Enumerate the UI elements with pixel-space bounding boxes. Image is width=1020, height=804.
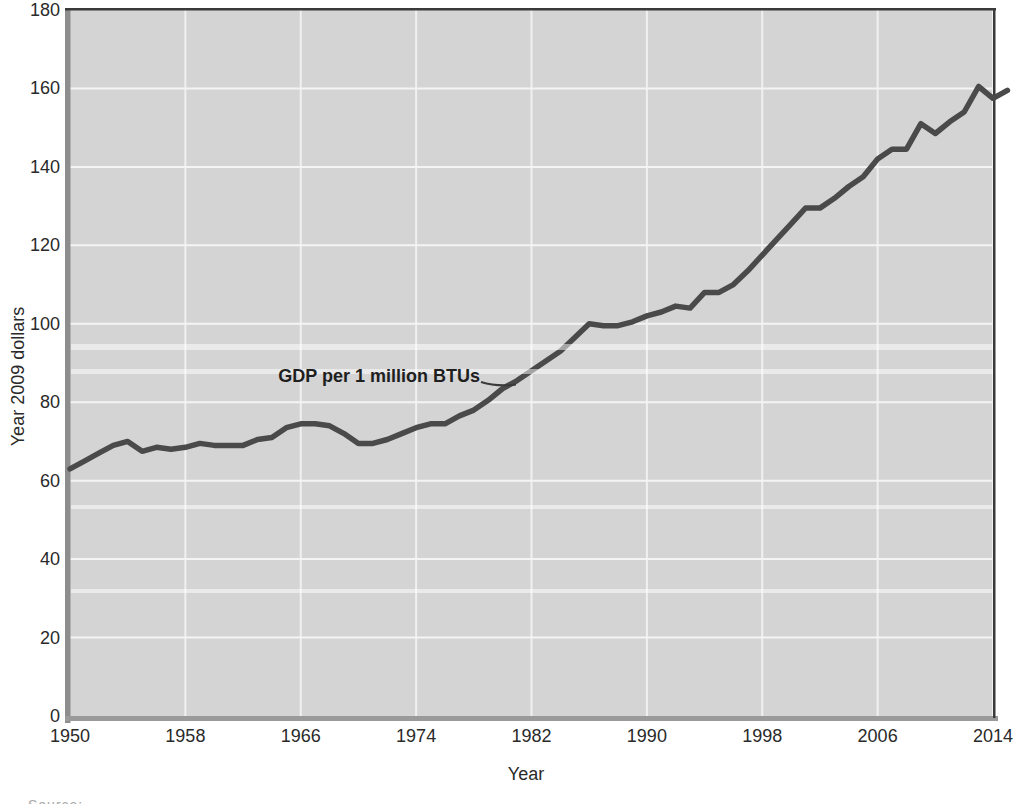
y-tick-label: 60: [12, 470, 60, 492]
scan-streak: [71, 505, 993, 509]
scan-streak: [71, 344, 993, 350]
x-tick-label: 1982: [500, 725, 564, 747]
scan-streak: [71, 589, 993, 593]
y-tick-label: 0: [12, 705, 60, 727]
line-chart-plot: [0, 0, 1020, 804]
plot-frame-right: [993, 8, 996, 718]
x-tick-label: 1950: [38, 725, 102, 747]
y-tick-label: 40: [12, 548, 60, 570]
chart-figure: Year 2009 dollars Year 18016014012010080…: [0, 0, 1020, 804]
source-footnote-cutoff: Source:: [28, 797, 83, 804]
x-tick-label: 1958: [153, 725, 217, 747]
y-tick-label: 20: [12, 627, 60, 649]
scan-streak: [71, 369, 993, 374]
x-tick-label: 2006: [846, 725, 910, 747]
series-annotation-label: GDP per 1 million BTUs: [278, 366, 480, 387]
y-tick-label: 140: [12, 156, 60, 178]
y-axis-line: [65, 8, 71, 723]
y-tick-label: 120: [12, 234, 60, 256]
y-tick-label: 160: [12, 77, 60, 99]
x-axis-line: [65, 716, 998, 721]
x-tick-label: 1966: [269, 725, 333, 747]
y-tick-label: 180: [12, 0, 60, 21]
x-tick-label: 1974: [384, 725, 448, 747]
x-tick-label: 1990: [615, 725, 679, 747]
x-tick-label: 2014: [961, 725, 1020, 747]
y-tick-label: 80: [12, 391, 60, 413]
plot-frame-top: [65, 8, 996, 11]
x-axis-title: Year: [461, 764, 591, 785]
x-tick-label: 1998: [730, 725, 794, 747]
y-tick-label: 100: [12, 313, 60, 335]
